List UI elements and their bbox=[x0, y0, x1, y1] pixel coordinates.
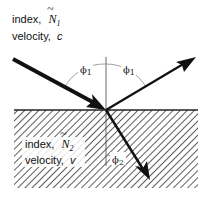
reflected-ray bbox=[106, 60, 190, 110]
refraction-diagram: index, N1 ~ velocity, c index, N2 ~ velo… bbox=[0, 0, 209, 200]
medium1-velocity-label: velocity, c bbox=[12, 30, 63, 42]
medium1-index-tilde: ~ bbox=[47, 2, 54, 16]
medium2-index-tilde: ~ bbox=[60, 127, 67, 141]
medium2-velocity-label: velocity, v bbox=[25, 154, 77, 166]
reflected-arrowhead-icon bbox=[176, 57, 196, 72]
